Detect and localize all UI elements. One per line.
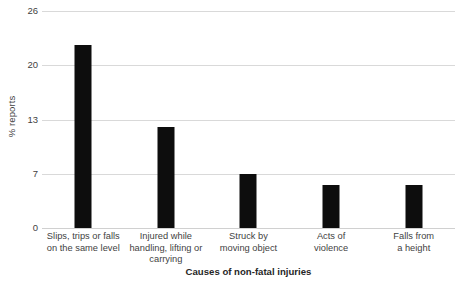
y-axis-tick-label: 26	[14, 6, 38, 16]
gridline	[42, 228, 455, 229]
x-axis-category-label: Falls froma height	[372, 231, 455, 254]
y-axis-tick-label: 0	[14, 223, 38, 233]
x-axis-category-label: Slips, trips or fallson the same level	[42, 231, 125, 254]
bar[interactable]	[240, 174, 257, 228]
y-axis-tick-label: 13	[14, 115, 38, 125]
bar-slot	[125, 11, 208, 228]
bar-slot	[42, 11, 125, 228]
y-axis-tick-label: 20	[14, 61, 38, 71]
bar-slot	[207, 11, 290, 228]
bar[interactable]	[323, 185, 340, 228]
y-axis-tick-label: 7	[14, 169, 38, 179]
bar-chart: % reports 26201370 Slips, trips or falls…	[0, 0, 470, 292]
bars-group	[42, 11, 455, 228]
y-axis-tick-labels: 26201370	[14, 0, 38, 232]
bar-slot	[290, 11, 373, 228]
x-axis-category-label: Acts ofviolence	[290, 231, 373, 254]
x-axis-category-label: Injured whilehandling, lifting orcarryin…	[125, 231, 208, 266]
x-axis-category-label: Struck bymoving object	[207, 231, 290, 254]
x-axis-title: Causes of non-fatal injuries	[42, 266, 455, 277]
bar[interactable]	[405, 185, 422, 228]
bar-slot	[372, 11, 455, 228]
plot-area	[42, 11, 455, 228]
bar[interactable]	[157, 127, 174, 228]
bar[interactable]	[75, 45, 92, 228]
